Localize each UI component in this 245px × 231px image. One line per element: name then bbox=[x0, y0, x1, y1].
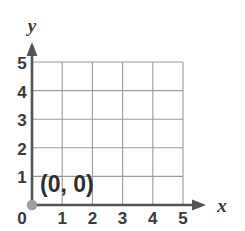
origin-point-marker bbox=[27, 200, 37, 210]
coordinate-grid-figure: 5 4 3 2 1 0 1 2 3 4 5 y x (0, 0) bbox=[0, 0, 245, 231]
y-axis-arrowhead bbox=[27, 42, 38, 56]
y-axis-name-label: y bbox=[26, 15, 37, 36]
horizontal-grid-lines bbox=[32, 62, 183, 176]
y-tick-label-5: 5 bbox=[17, 54, 26, 73]
x-tick-label-5: 5 bbox=[178, 209, 187, 228]
x-tick-label-3: 3 bbox=[118, 209, 127, 228]
y-tick-label-2: 2 bbox=[17, 140, 26, 159]
x-axis-arrowhead bbox=[192, 200, 206, 211]
origin-coordinate-annotation: (0, 0) bbox=[40, 171, 94, 197]
x-tick-label-4: 4 bbox=[148, 209, 158, 228]
y-tick-label-4: 4 bbox=[17, 83, 27, 102]
y-tick-label-3: 3 bbox=[17, 111, 26, 130]
origin-tick-label-0: 0 bbox=[17, 209, 26, 228]
coordinate-plane-svg: 5 4 3 2 1 0 1 2 3 4 5 y x (0, 0) bbox=[0, 0, 245, 231]
x-tick-label-1: 1 bbox=[57, 209, 66, 228]
x-tick-label-2: 2 bbox=[88, 209, 97, 228]
x-axis-name-label: x bbox=[216, 195, 227, 216]
y-tick-label-1: 1 bbox=[17, 168, 26, 187]
